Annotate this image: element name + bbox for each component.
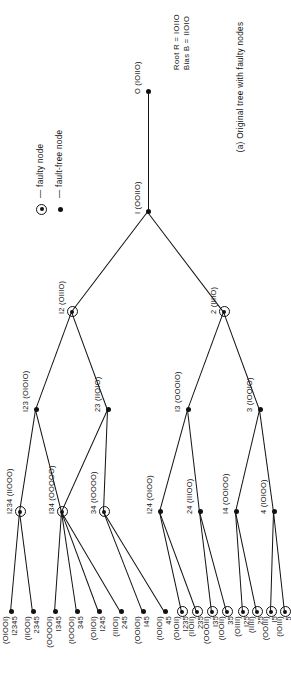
tree-edge <box>61 410 108 512</box>
tree-edge <box>273 512 285 612</box>
leaf-number: 245 <box>121 616 130 668</box>
tree-edge <box>159 410 188 512</box>
fault-free-node <box>158 510 163 515</box>
leaf-label: (OIIII)I25 <box>234 616 251 668</box>
tree-edge <box>235 410 260 512</box>
node-label: I (OOIIO) <box>134 181 142 214</box>
leaf-number: I5 <box>271 616 280 668</box>
bias-value: Bias B = IIOIO <box>182 14 192 70</box>
tree-edge <box>19 512 33 612</box>
faulty-node <box>219 307 230 318</box>
node-label: I234 (IIOOO) <box>6 468 14 514</box>
node-label: I4 (OOIOO) <box>222 473 230 514</box>
tree-edge <box>19 410 36 512</box>
leaf-label: (IIOOI)2345 <box>24 616 41 668</box>
tree-edge <box>199 512 212 612</box>
fault-free-node-icon <box>58 207 63 212</box>
fault-free-leaf-node <box>75 610 80 615</box>
leaf-label: (OIIOI)I245 <box>90 616 107 668</box>
tree-edge <box>270 512 274 612</box>
tree-edge <box>199 512 227 612</box>
node-label: 3 (IOOIO) <box>246 377 254 412</box>
caption-text: (a) Original tree with faulty nodes <box>236 22 245 153</box>
leaf-number: I45 <box>143 616 152 668</box>
leaf-number: I345 <box>55 616 64 668</box>
node-label: I24 (OIOO) <box>146 475 154 514</box>
fault-free-leaf-node <box>163 610 168 615</box>
tree-edge <box>103 512 143 612</box>
fault-free-node <box>146 90 151 95</box>
legend-fault-free-label: — fault-free node <box>55 130 64 198</box>
fault-free-leaf-node <box>97 610 102 615</box>
root-bias-info: Root R = IOIIO Bias B = IIOIO <box>172 14 193 70</box>
leaf-number: I25 <box>243 616 252 668</box>
fault-free-leaf-node <box>119 610 124 615</box>
faulty-node <box>15 507 26 518</box>
leaf-label: (OOOOI)I345 <box>46 616 63 668</box>
leaf-number: I2345 <box>11 616 20 668</box>
tree-edge <box>61 512 99 612</box>
tree-edge <box>54 512 62 612</box>
fault-free-leaf-node <box>53 610 58 615</box>
tree-edge <box>35 312 72 410</box>
leaf-number: 5 <box>285 616 291 668</box>
tree-edge <box>71 211 148 312</box>
leaf-label: (OIOII)I235 <box>173 616 190 668</box>
tree-edge <box>103 410 108 512</box>
figure-caption: (a) Original tree with faulty nodes <box>236 12 247 162</box>
leaf-code: (OOIII) <box>262 616 271 668</box>
fault-free-leaf-node <box>141 610 146 615</box>
fault-free-leaf-node <box>31 610 36 615</box>
tree-edge <box>71 312 108 410</box>
leaf-number: I235 <box>182 616 191 668</box>
tree-edge <box>10 512 20 612</box>
leaf-label: (OOOII)I35 <box>203 616 220 668</box>
tree-edge <box>187 312 224 410</box>
leaf-number: I245 <box>99 616 108 668</box>
leaf-number: 2345 <box>33 616 42 668</box>
node-label: 24 (IIIOO) <box>186 479 194 514</box>
tree-edge <box>148 92 149 212</box>
node-label: I23 (OIOIO) <box>22 371 30 412</box>
tree-figure-rotated: I (OOIIO)O (IOIIO)I2 (OIIIO)2 (IIIIO)I23… <box>0 0 291 682</box>
node-label: 23 (IIOIO) <box>94 377 102 412</box>
node-label: 4 (IOIOO) <box>260 479 268 514</box>
node-label: 34 (IOOOO) <box>90 471 98 514</box>
leaf-label: (OIOOI)I2345 <box>2 616 19 668</box>
node-label: I2 (OIIIO) <box>58 281 66 314</box>
tree-edge <box>223 312 260 410</box>
faulty-node <box>67 307 78 318</box>
node-label: 2 (IIIIO) <box>210 287 218 314</box>
figure-page: I (OOIIO)O (IOIIO)I2 (OIIIO)2 (IIIIO)I23… <box>0 0 291 682</box>
node-label: O (IOIIO) <box>134 61 142 94</box>
leaf-label: (IOOOI)345 <box>68 616 85 668</box>
faulty-node-icon <box>36 204 47 215</box>
leaf-label: (OOIII)I5 <box>262 616 279 668</box>
root-value: Root R = IOIIO <box>172 14 182 70</box>
faulty-node <box>57 507 68 518</box>
leaf-number: I35 <box>212 616 221 668</box>
leaf-label: (IIIOI)245 <box>112 616 129 668</box>
leaf-number: 345 <box>77 616 86 668</box>
node-label: I3 (OOOIO) <box>174 371 182 412</box>
faulty-node <box>99 507 110 518</box>
leaf-label: (IOIOI)45 <box>156 616 173 668</box>
fault-free-leaf-node <box>9 610 14 615</box>
legend-faulty-label: — faulty node <box>36 144 45 198</box>
leaf-label: (OOIOI)I45 <box>134 616 151 668</box>
node-label: I34 (OOOOO) <box>48 465 56 514</box>
